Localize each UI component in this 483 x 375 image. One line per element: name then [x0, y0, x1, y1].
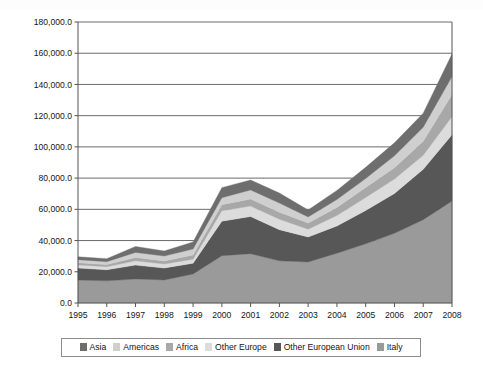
x-axis-tick-label: 2002: [270, 310, 289, 320]
x-axis-tick-label: 2006: [385, 310, 404, 320]
legend-item-asia[interactable]: Asia: [80, 343, 107, 352]
y-axis-tick-label: 60,000.0: [39, 204, 73, 214]
y-axis-tick-label: 140,000.0: [34, 80, 72, 90]
y-axis-tick-label: 180,000.0: [34, 17, 72, 27]
legend-item-italy[interactable]: Italy: [377, 343, 403, 352]
legend-item-label: Other Europe: [215, 343, 267, 352]
x-axis-tick-label: 2001: [241, 310, 260, 320]
legend-swatch-icon: [113, 343, 120, 351]
y-axis-tick-label: 40,000.0: [39, 236, 73, 246]
chart-canvas: 0.020,000.040,000.060,000.080,000.0100,0…: [0, 0, 483, 375]
x-axis-tick-label: 1997: [126, 310, 145, 320]
x-axis-tick-label: 2000: [212, 310, 231, 320]
y-axis-tick-label: 160,000.0: [34, 48, 72, 58]
stacked-area-chart: 0.020,000.040,000.060,000.080,000.0100,0…: [0, 0, 483, 375]
x-axis-tick-label: 2008: [442, 310, 461, 320]
x-axis-tick-label: 1999: [184, 310, 203, 320]
y-axis-tick-labels: 0.020,000.040,000.060,000.080,000.0100,0…: [34, 17, 72, 308]
legend-swatch-icon: [377, 343, 384, 351]
x-axis-tick-label: 2005: [356, 310, 375, 320]
legend-item-label: Asia: [90, 343, 107, 352]
y-axis-tick-label: 80,000.0: [39, 173, 73, 183]
legend-item-africa[interactable]: Africa: [166, 343, 198, 352]
y-axis-tick-label: 20,000.0: [39, 267, 73, 277]
legend-item-americas[interactable]: Americas: [113, 343, 159, 352]
x-axis-tick-label: 1995: [68, 310, 87, 320]
legend-item-other-european-union[interactable]: Other European Union: [274, 343, 370, 352]
x-axis-tick-label: 2007: [414, 310, 433, 320]
y-axis-tick-label: 100,000.0: [34, 142, 72, 152]
x-axis-tick-label: 2004: [327, 310, 346, 320]
legend-swatch-icon: [205, 343, 212, 351]
legend-item-label: Italy: [387, 343, 403, 352]
legend-swatch-icon: [80, 343, 87, 351]
legend-swatch-icon: [274, 343, 281, 351]
x-axis-tick-label: 2003: [299, 310, 318, 320]
legend-item-other-europe[interactable]: Other Europe: [205, 343, 267, 352]
legend-item-label: Americas: [123, 343, 159, 352]
chart-legend: AsiaAmericasAfricaOther EuropeOther Euro…: [61, 338, 421, 357]
scan-artifact-band: [0, 0, 483, 10]
y-axis-tick-label: 0.0: [60, 298, 72, 308]
x-axis-tick-label: 1998: [155, 310, 174, 320]
y-axis-tick-label: 120,000.0: [34, 111, 72, 121]
legend-item-label: Other European Union: [284, 343, 370, 352]
x-axis-tick-labels: 1995199619971998199920002001200220032004…: [68, 310, 461, 320]
x-axis-tick-label: 1996: [97, 310, 116, 320]
legend-item-label: Africa: [176, 343, 198, 352]
legend-swatch-icon: [166, 343, 173, 351]
